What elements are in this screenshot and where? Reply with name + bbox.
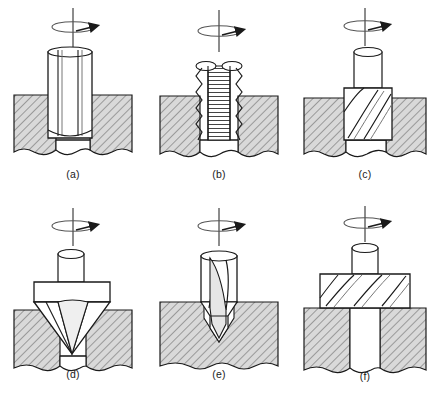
rotation-symbol-b: [198, 10, 240, 52]
panel-caption-a: (a): [0, 168, 146, 180]
panel-b: (b): [146, 0, 292, 198]
panel-f: (f): [292, 198, 438, 396]
tool-counterbore-c: [344, 48, 392, 141]
rotation-symbol-f: [344, 206, 386, 242]
panel-caption-d: (d): [0, 368, 146, 380]
panel-caption-c: (c): [292, 168, 438, 180]
rotation-symbol-d: [52, 208, 94, 246]
panel-caption-b: (b): [146, 168, 292, 180]
tool-spot-facer-f: [320, 244, 410, 309]
machining-operations-figure: (a) (b): [0, 0, 439, 396]
rotation-symbol-e: [198, 208, 240, 246]
rotation-symbol-a: [52, 8, 94, 48]
workpiece-f: [304, 308, 426, 373]
panel-e: (e): [146, 198, 292, 396]
panel-caption-e: (e): [146, 368, 292, 380]
rotation-symbol-c: [344, 8, 386, 46]
panel-d: (d): [0, 198, 146, 396]
panel-a: (a): [0, 0, 146, 198]
panel-c: (c): [292, 0, 438, 198]
tool-tap-b: [196, 62, 242, 141]
panel-caption-f: (f): [292, 370, 438, 382]
tool-reamer-a: [48, 47, 92, 138]
